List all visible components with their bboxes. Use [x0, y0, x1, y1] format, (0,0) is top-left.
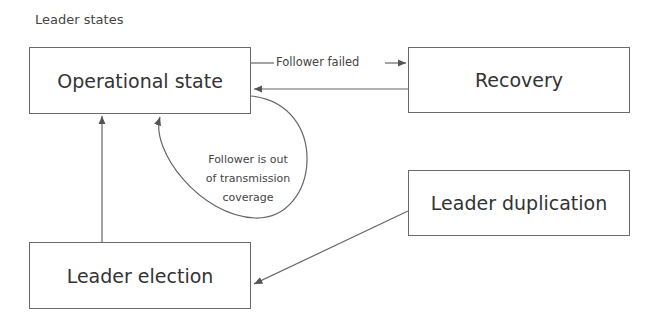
node-leader-election: Leader election [29, 242, 251, 309]
node-leader-duplication: Leader duplication [408, 170, 630, 236]
self-loop-line-3: coverage [196, 188, 300, 207]
edge-label-follower-failed: Follower failed [274, 55, 361, 69]
node-recovery: Recovery [408, 47, 630, 113]
edge-label-self-loop: Follower is out of transmission coverage [196, 150, 300, 207]
self-loop-line-2: of transmission [196, 169, 300, 188]
self-loop-line-1: Follower is out [196, 150, 300, 169]
node-operational-state: Operational state [29, 47, 251, 114]
